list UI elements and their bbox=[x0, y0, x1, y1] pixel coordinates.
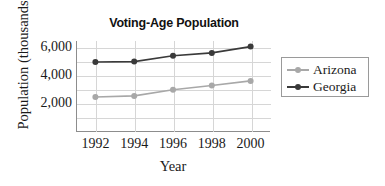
data-point-georgia bbox=[209, 50, 215, 56]
legend-marker-georgia bbox=[286, 81, 310, 93]
legend-marker-arizona bbox=[286, 64, 310, 76]
y-tick-label: 6,000 bbox=[26, 39, 72, 55]
legend-item-arizona: Arizona bbox=[286, 61, 364, 78]
y-tick-label: 2,000 bbox=[26, 95, 72, 111]
data-point-georgia bbox=[170, 53, 176, 59]
data-point-arizona bbox=[248, 78, 254, 84]
data-point-georgia bbox=[248, 44, 254, 50]
y-tick-label: 4,000 bbox=[26, 67, 72, 83]
data-point-arizona bbox=[170, 87, 176, 93]
x-axis-title: Year bbox=[76, 158, 270, 175]
data-point-georgia bbox=[131, 59, 137, 65]
legend-label-arizona: Arizona bbox=[310, 62, 356, 78]
legend-label-georgia: Georgia bbox=[310, 79, 356, 95]
series-layer bbox=[76, 41, 270, 132]
data-point-arizona bbox=[92, 94, 98, 100]
data-point-arizona bbox=[131, 93, 137, 99]
data-point-arizona bbox=[209, 83, 215, 89]
y-axis-tick-labels: 2,0004,0006,000 bbox=[24, 41, 72, 132]
data-point-georgia bbox=[92, 59, 98, 65]
chart-title: Voting-Age Population bbox=[76, 16, 272, 30]
legend: Arizona Georgia bbox=[281, 57, 369, 97]
legend-item-georgia: Georgia bbox=[286, 78, 364, 95]
chart-figure: Population (thousands) Voting-Age Popula… bbox=[0, 0, 385, 186]
x-tick-label: 2000 bbox=[225, 136, 277, 152]
